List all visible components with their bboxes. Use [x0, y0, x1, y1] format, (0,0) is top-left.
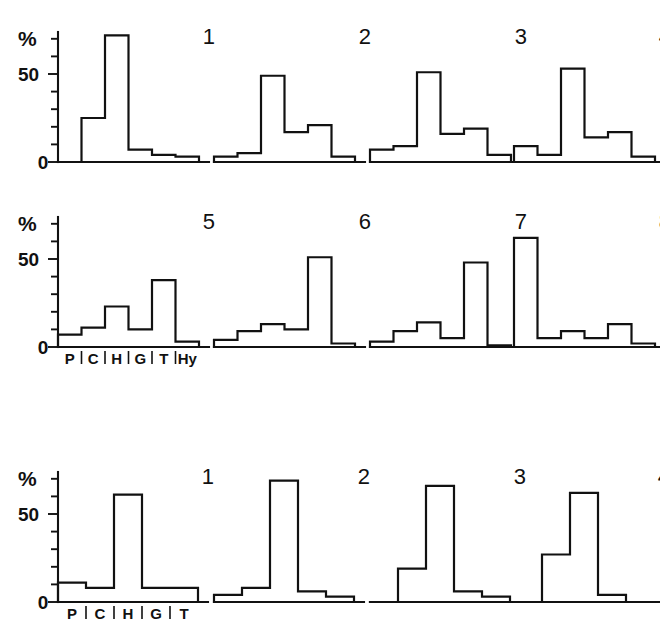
x-axis-label-h: H: [123, 605, 134, 622]
y-tick-label-0: 0: [38, 152, 49, 173]
histogram-outline: [514, 493, 654, 602]
y-tick-label-50: 50: [18, 249, 39, 270]
panel-row-middle: %5005PCHGTHy678: [0, 207, 624, 372]
chart-panel-middle-8: 8: [470, 207, 660, 391]
x-axis-label-t: T: [159, 350, 168, 367]
y-tick-label-50: 50: [18, 504, 39, 525]
y-tick-label-0: 0: [38, 337, 49, 358]
y-tick-label-50: 50: [18, 64, 39, 85]
x-axis-label-g: G: [134, 350, 146, 367]
chart-panel-lower-4: 4: [470, 462, 660, 629]
x-axis-label-c: C: [88, 350, 99, 367]
y-axis-label: %: [18, 467, 37, 490]
panel-row-lower: %5001PCHGT234: [0, 462, 624, 629]
x-axis-label-c: C: [95, 605, 106, 622]
x-axis-label-h: H: [111, 350, 122, 367]
x-axis-label-g: G: [150, 605, 162, 622]
x-axis-label-p: P: [67, 605, 77, 622]
cut-off-caption: [0, 0, 624, 3]
panel-row-upper: %5001234: [0, 22, 624, 182]
y-axis-label: %: [18, 27, 37, 50]
y-axis-label: %: [18, 212, 37, 235]
histogram-outline: [514, 238, 655, 347]
x-axis-label-p: P: [65, 350, 75, 367]
y-tick-label-0: 0: [38, 592, 49, 613]
chart-panel-upper-4: 4: [470, 22, 660, 206]
histogram-outline: [514, 69, 655, 162]
